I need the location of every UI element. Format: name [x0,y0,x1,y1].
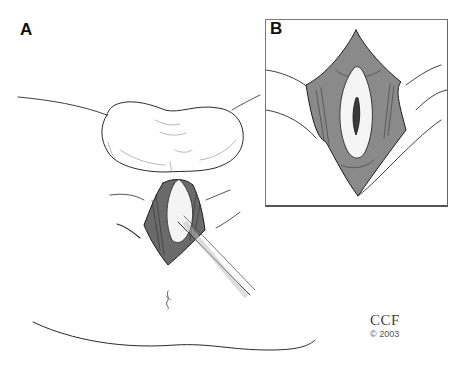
credit-organization: CCF [370,312,400,329]
panel-b-illustration [266,20,447,205]
panel-b-inset-frame [265,19,448,207]
illustration-credit: CCF © 2003 [370,312,400,339]
panel-label-b: B [270,19,282,39]
credit-copyright: © 2003 [370,329,400,339]
